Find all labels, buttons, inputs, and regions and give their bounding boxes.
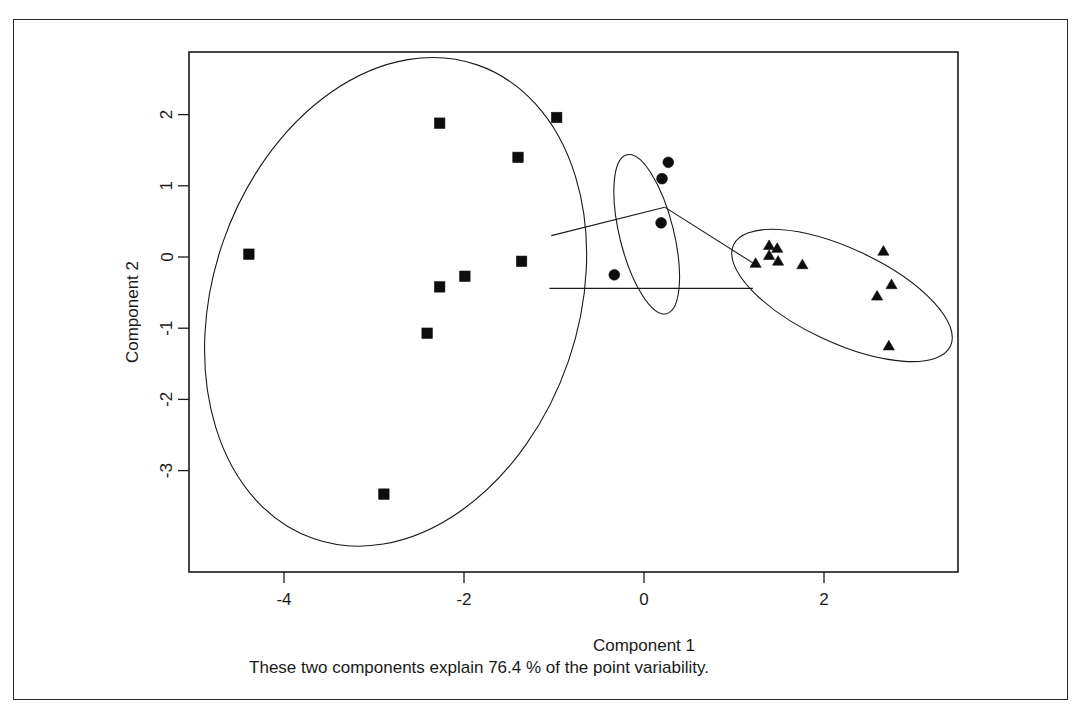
data-point-triangle-4: [773, 256, 784, 266]
data-point-square-1: [244, 249, 254, 259]
x-axis-ticks: -4-202: [276, 572, 828, 609]
plot-frame: [189, 52, 958, 572]
data-point-triangle-7: [878, 246, 889, 256]
data-point-circle-2: [657, 173, 668, 184]
y-tick-label--3: -3: [158, 463, 177, 478]
y-tick-label-0: 0: [158, 252, 177, 261]
x-axis-title: Component 1: [593, 636, 695, 655]
y-tick-label-2: 2: [158, 110, 177, 119]
data-point-triangle-9: [872, 290, 883, 300]
cluster-connectors: [550, 207, 755, 288]
y-tick-label--1: -1: [158, 321, 177, 336]
data-point-square-7: [435, 282, 445, 292]
data-point-square-9: [379, 489, 389, 499]
data-point-circle-4: [609, 269, 620, 280]
plot-subtitle: These two components explain 76.4 % of t…: [249, 658, 709, 677]
series-1-square-markers: [244, 112, 562, 499]
data-point-triangle-1: [764, 240, 775, 250]
data-point-square-3: [552, 112, 562, 122]
x-tick-label-2: 2: [819, 590, 828, 609]
cluster-3-ellipse: [714, 202, 971, 388]
cluster-ellipses: [141, 5, 970, 598]
y-axis-ticks: 210-1-2-3: [158, 110, 190, 478]
scatter-plot-canvas: -4-202 210-1-2-3 Component 1 Component 2…: [0, 0, 1079, 715]
data-point-triangle-6: [797, 259, 808, 269]
cluster-1-ellipse: [141, 5, 650, 598]
data-point-square-2: [435, 118, 445, 128]
data-point-circle-3: [656, 217, 667, 228]
link-cluster1-cluster2: [551, 207, 664, 235]
y-tick-label--2: -2: [158, 392, 177, 407]
cluster-2-ellipse: [601, 148, 693, 320]
data-point-square-5: [516, 256, 526, 266]
data-point-triangle-10: [883, 340, 894, 350]
figure-page: -4-202 210-1-2-3 Component 1 Component 2…: [0, 0, 1079, 715]
data-point-square-4: [513, 152, 523, 162]
data-point-triangle-8: [886, 279, 897, 289]
y-tick-label-1: 1: [158, 181, 177, 190]
data-point-square-8: [422, 328, 432, 338]
y-axis-title: Component 2: [123, 261, 142, 363]
data-point-square-6: [460, 271, 470, 281]
data-points: [244, 112, 897, 499]
series-3-triangle-markers: [750, 240, 897, 350]
data-point-circle-1: [663, 157, 674, 168]
x-tick-label--4: -4: [276, 590, 291, 609]
x-tick-label-0: 0: [639, 590, 648, 609]
x-tick-label--2: -2: [456, 590, 471, 609]
